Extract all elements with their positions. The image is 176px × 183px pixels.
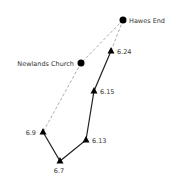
triangle-marker-icon <box>83 136 90 143</box>
triangle-marker-icon <box>91 87 98 94</box>
newlands-church-label: Newlands Church <box>17 60 74 68</box>
hawes-end-dot-icon <box>120 17 127 24</box>
dashed-path-hawes-6-24 <box>111 20 123 51</box>
waypoint-label-6-24: 6.24 <box>117 48 131 56</box>
dashed-path-hawes-newlands-6-9 <box>43 20 123 132</box>
waypoint-label-6-13: 6.13 <box>92 137 106 145</box>
waypoint-label-6-7: 6.7 <box>54 167 64 175</box>
newlands-church-dot-icon <box>78 60 85 67</box>
triangle-marker-icon <box>108 47 115 54</box>
waypoint-label-6-15: 6.15 <box>100 88 114 96</box>
hawes-end-label: Hawes End <box>129 17 165 25</box>
route-diagram: Hawes End Newlands Church 6.24 6.15 6.13… <box>0 0 176 183</box>
waypoint-label-6-9: 6.9 <box>26 129 36 137</box>
triangle-marker-icon <box>40 128 47 135</box>
